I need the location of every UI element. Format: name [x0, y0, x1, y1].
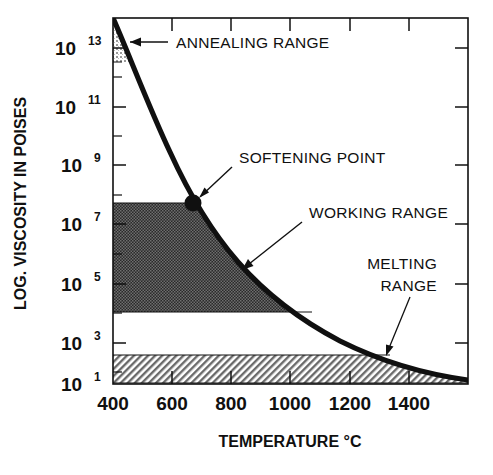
- y-tick-label: 10 13: [55, 34, 102, 59]
- melting-range-annotation-line1: MELTING: [367, 255, 437, 272]
- x-tick-label: 1000: [269, 393, 311, 414]
- x-tick-label: 1200: [329, 393, 371, 414]
- y-tick-exponent: 1: [94, 370, 101, 384]
- y-tick-label: 10 1: [61, 370, 101, 395]
- y-tick-label: 10 11: [55, 93, 101, 118]
- y-tick-base: 10: [55, 97, 76, 118]
- y-tick-base: 10: [55, 38, 76, 59]
- y-tick-labels: 10 13 10 11 10 9 10 7 10 5 10 3 10 1: [55, 34, 102, 395]
- y-axis-ticks-right: [455, 48, 468, 343]
- y-tick-label: 10 3: [61, 329, 101, 354]
- viscosity-curve: [113, 18, 468, 380]
- y-tick-exponent: 11: [88, 93, 101, 107]
- x-tick-label: 800: [215, 393, 247, 414]
- x-axis-ticks-top: [172, 18, 409, 31]
- melting-range-annotation-line2: RANGE: [380, 277, 437, 294]
- y-tick-exponent: 3: [94, 329, 101, 343]
- x-tick-label: 1400: [388, 393, 430, 414]
- y-tick-base: 10: [61, 214, 82, 235]
- y-tick-base: 10: [61, 155, 82, 176]
- y-tick-exponent: 9: [94, 151, 101, 165]
- y-tick-base: 10: [61, 274, 82, 295]
- annealing-range-annotation: ANNEALING RANGE: [176, 34, 330, 51]
- x-tick-label: 400: [97, 393, 129, 414]
- x-tick-labels: 400 600 800 1000 1200 1400: [97, 393, 430, 414]
- y-tick-exponent: 7: [94, 210, 101, 224]
- plot-frame: [113, 18, 468, 384]
- working-range-annotation: WORKING RANGE: [309, 204, 448, 221]
- viscosity-temperature-chart: LOG. VISCOSITY IN POISES TEMPERATURE °C …: [0, 0, 493, 475]
- chart-canvas: LOG. VISCOSITY IN POISES TEMPERATURE °C …: [0, 0, 493, 475]
- y-tick-label: 10 5: [61, 270, 101, 295]
- x-tick-label: 600: [156, 393, 188, 414]
- y-tick-base: 10: [61, 333, 82, 354]
- softening-point-marker: [185, 195, 202, 212]
- y-tick-label: 10 9: [61, 151, 101, 176]
- x-axis-label: TEMPERATURE °C: [219, 433, 362, 450]
- y-tick-exponent: 13: [88, 34, 102, 48]
- shaded-bands-group: [113, 21, 468, 383]
- y-tick-exponent: 5: [94, 270, 101, 284]
- y-axis-label: LOG. VISCOSITY IN POISES: [12, 97, 29, 310]
- viscosity-curve-group: [113, 18, 468, 380]
- softening-point-annotation: SOFTENING POINT: [239, 149, 386, 166]
- y-tick-base: 10: [61, 374, 82, 395]
- y-tick-label: 10 7: [61, 210, 101, 235]
